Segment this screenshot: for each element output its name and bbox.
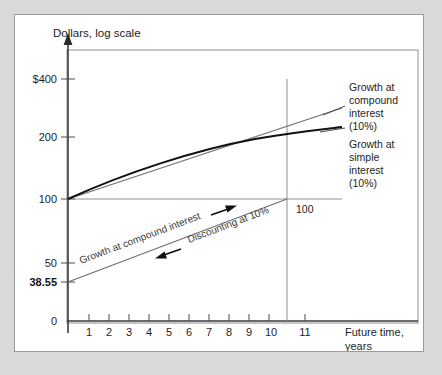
figure-panel: Dollars, log scale $400 200 100 50 38.55… — [14, 14, 424, 352]
series-label-compound-line2: compound — [349, 94, 398, 106]
series-label-compound-line4: (10%) — [349, 120, 377, 132]
series-label-simple-line3: interest — [349, 164, 384, 176]
annotation-label-100: 100 — [296, 203, 314, 215]
x-tick-label-1: 1 — [86, 326, 92, 338]
x-axis-title-line1: Future time, — [345, 326, 404, 338]
x-tick-label-6: 6 — [186, 326, 192, 338]
series-label-simple-line1: Growth at — [349, 138, 395, 150]
series-label-compound-line1: Growth at — [349, 81, 395, 93]
x-tick-label-11: 11 — [299, 326, 310, 338]
y-tick-label-200: 200 — [39, 131, 57, 143]
y-tick-label-0: 0 — [51, 315, 57, 327]
x-tick-label-2: 2 — [106, 326, 112, 338]
x-tick-label-5: 5 — [166, 326, 172, 338]
x-tick-label-4: 4 — [146, 326, 152, 338]
y-tick-label-400: $400 — [33, 73, 57, 85]
x-tick-label-7: 7 — [206, 326, 212, 338]
x-tick-label-10: 10 — [265, 326, 277, 338]
series-line-compound-interest — [68, 108, 342, 199]
y-axis-title: Dollars, log scale — [53, 27, 141, 39]
x-tick-label-9: 9 — [246, 326, 252, 338]
x-tick-label-8: 8 — [226, 326, 232, 338]
y-tick-label-50: 50 — [45, 257, 57, 269]
growth-direction-arrow — [211, 206, 237, 215]
x-axis-title-line2: years — [345, 340, 372, 351]
series-label-simple-line2: simple — [349, 151, 380, 163]
series-label-simple-line4: (10%) — [349, 177, 377, 189]
leader-line-compound-interest — [323, 106, 345, 115]
y-tick-label-100: 100 — [39, 193, 57, 205]
chart-canvas: Dollars, log scale $400 200 100 50 38.55… — [15, 15, 423, 351]
y-tick-label-38-55: 38.55 — [29, 276, 57, 288]
discounting-direction-arrow — [155, 249, 181, 258]
x-tick-label-3: 3 — [126, 326, 132, 338]
series-label-compound-line3: interest — [349, 107, 384, 119]
series-line-simple-interest — [68, 127, 342, 199]
